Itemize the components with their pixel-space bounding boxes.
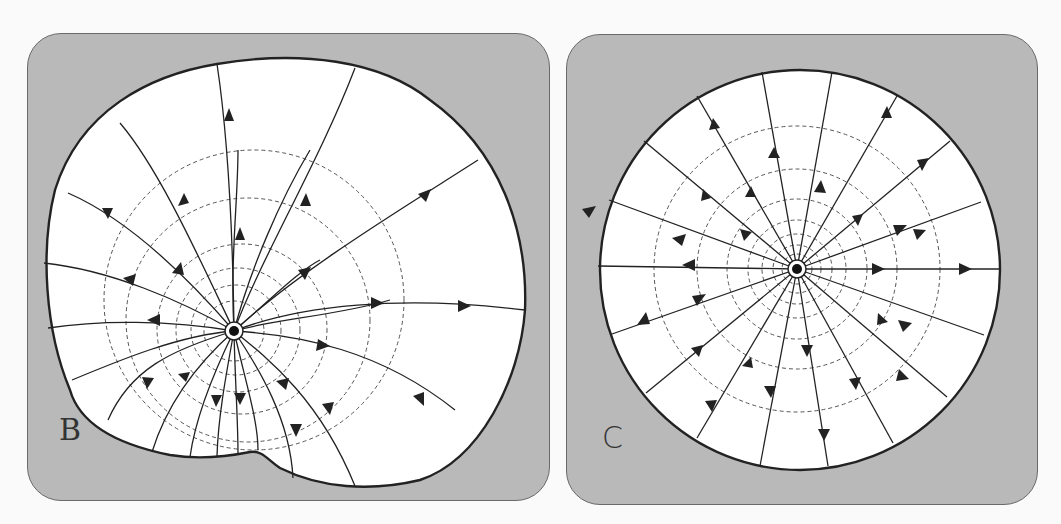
panel-b-label: B — [59, 412, 81, 447]
field-diagram — [0, 0, 1061, 524]
panel-b-boundary — [47, 58, 526, 487]
panel-c-source-point — [792, 264, 802, 274]
panel-b-diagram — [44, 58, 525, 487]
panel-c-label: C — [602, 420, 623, 455]
panel-c-diagram — [582, 70, 1000, 470]
panel-b-source-point — [229, 326, 239, 336]
